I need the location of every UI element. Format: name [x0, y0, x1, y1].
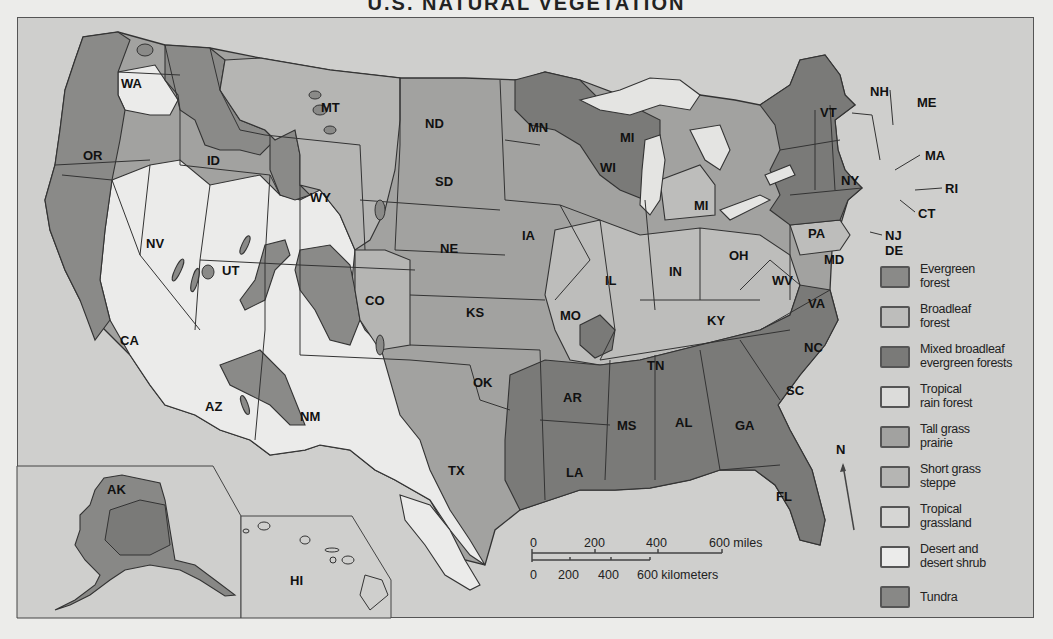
label-md: MD: [824, 252, 844, 267]
label-ca: CA: [120, 333, 139, 348]
label-or: OR: [83, 148, 103, 163]
label-oh: OH: [729, 248, 749, 263]
label-fl: FL: [776, 489, 792, 504]
label-ia: IA: [522, 228, 536, 243]
north-label: N: [836, 442, 845, 457]
legend-item-mixed-forest: Mixed broadleafevergreen forests: [880, 342, 1030, 382]
label-la: LA: [566, 465, 584, 480]
label-ms: MS: [617, 418, 637, 433]
label-nm: NM: [300, 409, 320, 424]
scale-miles-400: 400: [646, 536, 667, 550]
label-ks: KS: [466, 305, 484, 320]
scale-miles-200: 200: [584, 536, 605, 550]
label-ak: AK: [107, 482, 126, 497]
scale-miles-0: 0: [530, 536, 537, 550]
legend-swatch: [880, 466, 910, 488]
legend-label: Desert anddesert shrub: [920, 542, 986, 570]
scale-km-400: 400: [598, 568, 619, 582]
label-ne: NE: [440, 241, 458, 256]
label-pa: PA: [808, 226, 826, 241]
label-id: ID: [207, 153, 220, 168]
legend-swatch: [880, 506, 910, 528]
legend-item-evergreen-forest: Evergreenforest: [880, 262, 1030, 302]
legend-item-broadleaf-forest: Broadleafforest: [880, 302, 1030, 342]
label-tx: TX: [448, 463, 465, 478]
alaska-inset: [17, 466, 241, 618]
label-mn: MN: [528, 120, 548, 135]
label-ut: UT: [222, 263, 239, 278]
label-nv: NV: [146, 236, 164, 251]
scale-miles-600: 600 miles: [709, 536, 763, 550]
legend-label: Mixed broadleafevergreen forests: [920, 342, 1012, 370]
label-il: IL: [605, 273, 617, 288]
legend-item-tall-grass-prairie: Tall grassprairie: [880, 422, 1030, 462]
label-ma: MA: [925, 148, 946, 163]
legend-swatch: [880, 386, 910, 408]
legend-swatch: [880, 426, 910, 448]
label-wa: WA: [121, 76, 143, 91]
label-me: ME: [917, 95, 937, 110]
legend-label: Broadleafforest: [920, 302, 971, 330]
legend-item-desert: Desert anddesert shrub: [880, 542, 1030, 582]
legend-label: Evergreenforest: [920, 262, 975, 290]
label-wv: WV: [772, 273, 793, 288]
label-wi: WI: [600, 160, 616, 175]
scale-km-200: 200: [558, 568, 579, 582]
label-nc: NC: [804, 340, 823, 355]
label-az: AZ: [205, 399, 222, 414]
label-sc: SC: [786, 383, 805, 398]
label-in: IN: [669, 264, 682, 279]
label-ok: OK: [473, 375, 493, 390]
north-arrow-icon: [843, 465, 854, 530]
legend: Evergreenforest Broadleafforest Mixed br…: [880, 262, 1030, 622]
legend-swatch: [880, 306, 910, 328]
label-co: CO: [365, 293, 385, 308]
label-ar: AR: [563, 390, 582, 405]
label-ga: GA: [735, 418, 755, 433]
label-nj: NJ: [885, 228, 902, 243]
legend-label: Short grasssteppe: [920, 462, 981, 490]
scale-bar: 0 200 400 600 miles 0 200 400 600 kilome…: [530, 536, 763, 582]
legend-swatch: [880, 586, 910, 608]
label-al: AL: [675, 415, 692, 430]
hawaii-inset: [241, 516, 391, 618]
scale-km-600: 600 kilometers: [637, 568, 718, 582]
label-va: VA: [808, 296, 826, 311]
scale-km-0: 0: [530, 568, 537, 582]
label-ny: NY: [841, 173, 859, 188]
label-nd: ND: [425, 116, 444, 131]
label-tn: TN: [647, 358, 664, 373]
label-mi-lower: MI: [694, 198, 708, 213]
label-sd: SD: [435, 174, 453, 189]
legend-item-tropical-rain-forest: Tropicalrain forest: [880, 382, 1030, 422]
label-ct: CT: [918, 206, 935, 221]
label-mo: MO: [560, 308, 581, 323]
label-mi-upper: MI: [620, 130, 634, 145]
legend-item-tropical-grassland: Tropicalgrassland: [880, 502, 1030, 542]
legend-item-tundra: Tundra: [880, 582, 1030, 622]
north-arrow: N: [836, 442, 854, 530]
legend-label: Tall grassprairie: [920, 422, 970, 450]
legend-label: Tropicalrain forest: [920, 382, 972, 410]
legend-label: Tundra: [920, 590, 957, 604]
label-ky: KY: [707, 313, 725, 328]
legend-item-short-grass-steppe: Short grasssteppe: [880, 462, 1030, 502]
legend-label: Tropicalgrassland: [920, 502, 972, 530]
alaska-inner-region: [105, 500, 170, 555]
label-vt: VT: [820, 105, 837, 120]
label-nh: NH: [870, 84, 889, 99]
legend-swatch: [880, 266, 910, 288]
legend-swatch: [880, 546, 910, 568]
label-mt: MT: [321, 100, 340, 115]
label-ri: RI: [945, 181, 958, 196]
label-de: DE: [885, 243, 903, 258]
legend-swatch: [880, 346, 910, 368]
label-hi: HI: [290, 573, 303, 588]
label-wy: WY: [310, 190, 331, 205]
